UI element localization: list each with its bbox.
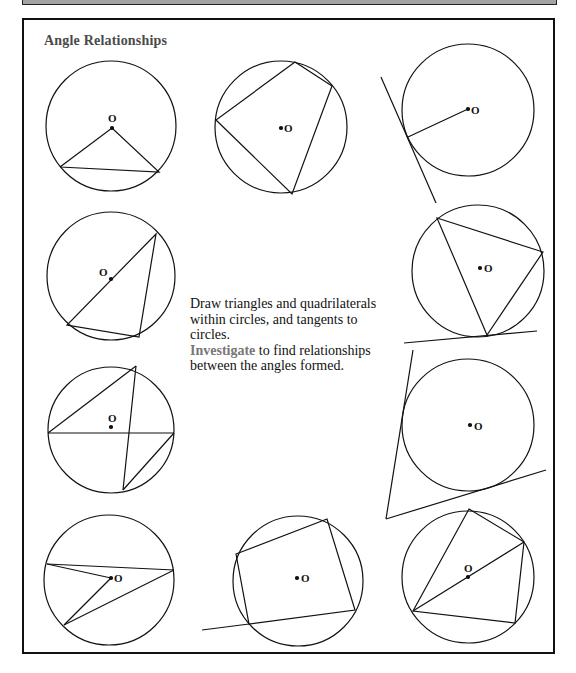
circle <box>47 212 175 340</box>
figure-quadrilateral-with-diameter: O <box>402 509 534 643</box>
circle <box>233 516 363 646</box>
center-point <box>110 278 113 281</box>
chord <box>123 433 174 490</box>
figure-angle-at-center: O <box>44 515 174 645</box>
center-label: O <box>301 572 310 584</box>
center-label: O <box>474 420 483 432</box>
center-point <box>110 577 113 580</box>
figure-cyclic-quadrilateral-extended: O <box>202 516 363 646</box>
center-point <box>296 577 299 580</box>
center-label: O <box>114 572 123 584</box>
triangle <box>60 128 159 172</box>
center-point <box>467 108 470 111</box>
instructions-line: Draw triangles and quadrilaterals <box>190 296 390 312</box>
center-point <box>280 127 283 130</box>
center-label: O <box>99 266 108 278</box>
investigate-highlight: Investigate <box>190 343 255 358</box>
instructions-line: between the angles formed. <box>190 358 390 374</box>
center-label: O <box>108 112 117 124</box>
center-point <box>469 424 472 427</box>
figure-cyclic-quadrilateral: O <box>215 61 347 194</box>
chord <box>48 366 136 433</box>
tangent-line <box>386 350 413 519</box>
circle <box>48 367 174 493</box>
center-label: O <box>108 412 117 424</box>
figure-isosceles-triangle-center: O <box>46 61 176 191</box>
center-label: O <box>284 122 293 134</box>
center-point <box>479 267 482 270</box>
center-point <box>111 127 114 130</box>
center-point <box>110 426 113 429</box>
radius <box>64 578 111 625</box>
tangent-line <box>381 77 436 203</box>
chord <box>47 564 174 570</box>
radius <box>408 109 468 137</box>
instructions-line: Investigate to find relationships <box>190 343 390 359</box>
figure-inscribed-triangle-tangent: O <box>404 205 544 343</box>
instructions-line: circles. <box>190 327 390 343</box>
chord <box>123 366 136 490</box>
instructions-text: to find relationships <box>255 343 371 358</box>
circle <box>412 205 544 337</box>
figure-angles-same-segment: O <box>48 366 174 493</box>
center-label: O <box>484 262 493 274</box>
figure-two-tangents: O <box>386 350 546 519</box>
center-label: O <box>471 104 480 116</box>
figure-tangent-radius: O <box>381 44 534 203</box>
tangent-line <box>404 331 537 343</box>
extended-side <box>202 624 249 630</box>
instructions-line: within circles, and tangents to <box>190 312 390 328</box>
triangle <box>67 234 156 337</box>
instructions: Draw triangles and quadrilaterals within… <box>190 296 390 374</box>
quadrilateral <box>236 519 355 624</box>
triangle <box>437 218 543 335</box>
figure-triangle-on-diameter: O <box>47 212 175 340</box>
center-point <box>467 576 470 579</box>
tangent-line <box>386 470 546 519</box>
center-label: O <box>464 562 473 574</box>
